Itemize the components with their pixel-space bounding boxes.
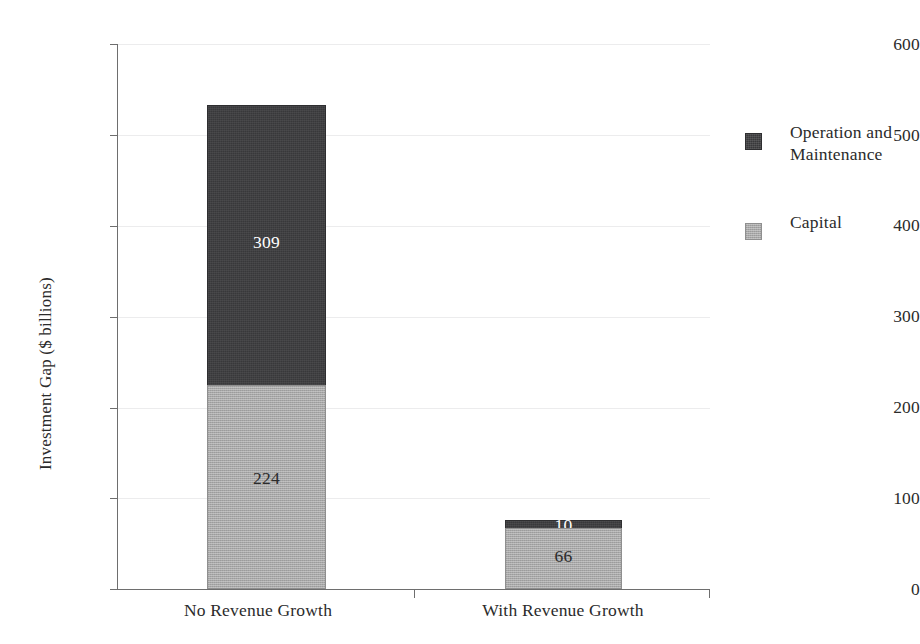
y-tick-label-100: 100 xyxy=(868,490,920,508)
legend-label-capital: Capital xyxy=(790,211,842,233)
y-tick-label-0: 0 xyxy=(868,581,920,599)
x-axis-end-tick xyxy=(709,589,710,598)
bar-label-om-no-revenue-growth: 309 xyxy=(208,234,325,252)
plot-area: 309 224 10 66 xyxy=(118,44,710,589)
bar-group-with-revenue-growth: 10 66 xyxy=(505,520,622,589)
y-tick-label-600: 600 xyxy=(868,36,920,54)
bar-label-capital-with-revenue-growth: 66 xyxy=(506,548,621,566)
bar-segment-capital-no-revenue-growth: 224 xyxy=(207,385,326,589)
legend-item-capital[interactable]: Capital xyxy=(745,220,915,260)
legend-swatch-capital-icon xyxy=(745,223,762,240)
bar-segment-capital-with-revenue-growth: 66 xyxy=(505,528,622,589)
chart-legend: Operation and Maintenance Capital xyxy=(745,125,915,260)
x-category-divider-tick xyxy=(414,589,415,598)
bar-group-no-revenue-growth: 309 224 xyxy=(207,105,326,589)
bar-label-capital-no-revenue-growth: 224 xyxy=(208,470,325,488)
x-category-label-no-revenue-growth: No Revenue Growth xyxy=(148,600,368,620)
legend-item-operation-and-maintenance[interactable]: Operation and Maintenance xyxy=(745,125,915,185)
y-tick-label-300: 300 xyxy=(868,308,920,326)
x-category-label-with-revenue-growth: With Revenue Growth xyxy=(453,600,673,620)
legend-label-operation-and-maintenance: Operation and Maintenance xyxy=(790,121,892,165)
bar-segment-om-no-revenue-growth: 309 xyxy=(207,105,326,386)
y-axis-title: Investment Gap ($ billions) xyxy=(36,277,56,470)
gridline-600 xyxy=(118,44,710,45)
stacked-bar-chart: Investment Gap ($ billions) 600 500 400 … xyxy=(0,0,920,644)
legend-swatch-om-icon xyxy=(745,133,762,150)
y-tick-label-200: 200 xyxy=(868,399,920,417)
